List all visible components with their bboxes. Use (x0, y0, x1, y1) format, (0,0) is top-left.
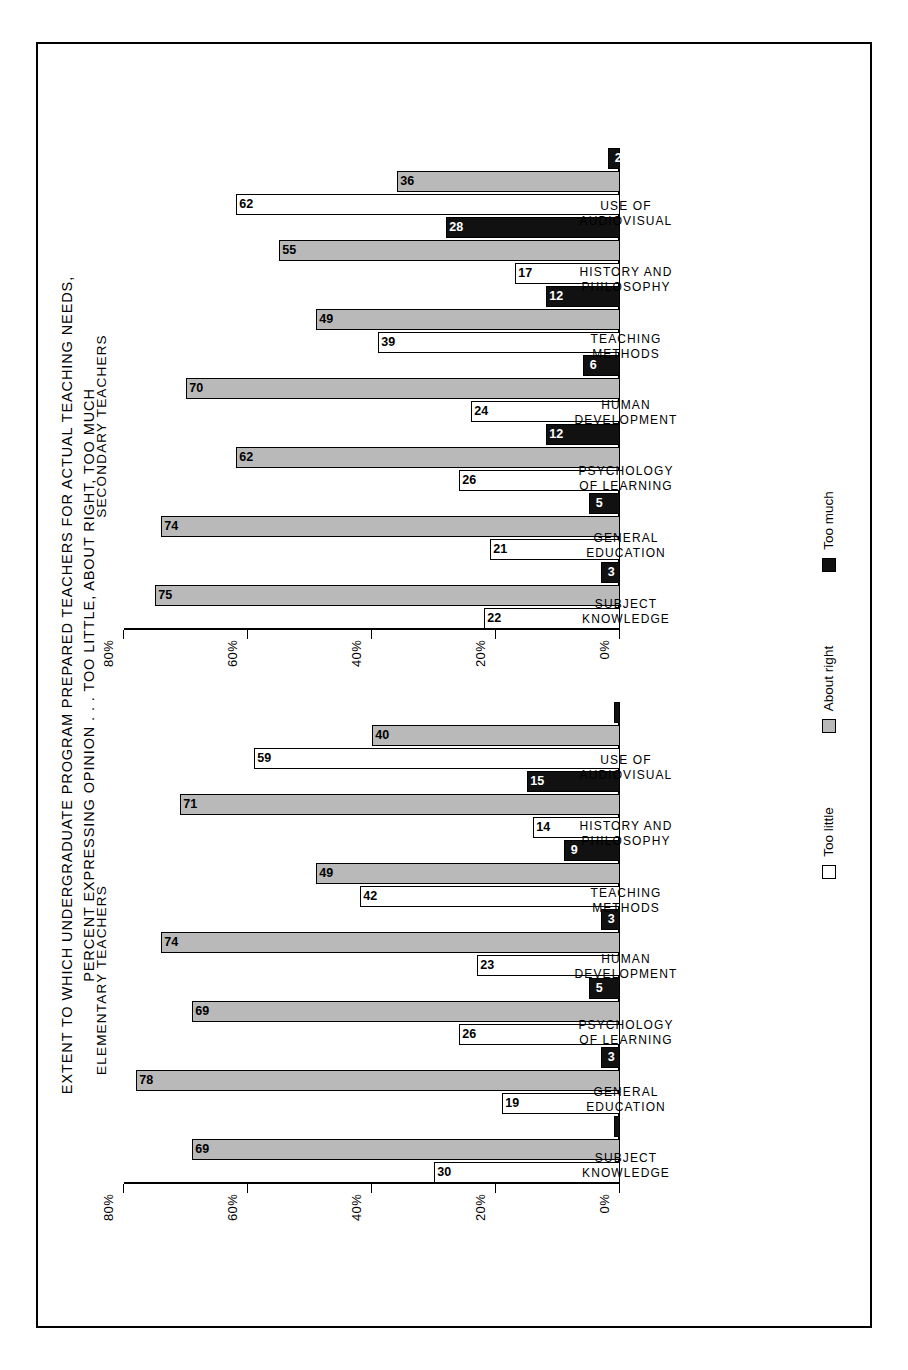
bar-little: 42 (360, 886, 620, 907)
bar-group: 21745 (124, 492, 620, 561)
bar-right: 49 (316, 863, 620, 884)
bar-value-label: 19 (506, 1097, 520, 1110)
category-label: HISTORY ANDPHILOSOPHY (620, 232, 684, 298)
bar-value-label: 36 (400, 175, 414, 188)
axis-tick-label: 40% (349, 1194, 364, 1236)
panel-elementary: ELEMENTARY TEACHERS 0%20%40%60%80% 30691… (124, 720, 684, 1240)
bar-much: 5 (589, 493, 620, 514)
axis-tick (123, 1184, 125, 1193)
category-label: GENERALEDUCATION (620, 497, 684, 563)
bar-value-label: 40 (375, 729, 389, 742)
legend-label: About right (821, 646, 836, 711)
bar-value-label: 28 (450, 221, 464, 234)
chart-title-line-1: EXTENT TO WHICH UNDERGRADUATE PROGRAM PR… (59, 276, 75, 1094)
category-label: HUMANDEVELOPMENT (620, 919, 684, 985)
bar-value-label: 55 (282, 244, 296, 257)
bar-right: 49 (316, 309, 620, 330)
bar-value-label: 75 (158, 589, 172, 602)
bar-right: 74 (161, 932, 620, 953)
axis-tick-label: 80% (101, 640, 116, 682)
bar-group: 26695 (124, 977, 620, 1046)
bar-right: 78 (136, 1070, 620, 1091)
bar-group: 394912 (124, 285, 620, 354)
bar-value-label: 42 (363, 890, 377, 903)
bar-little: 59 (254, 748, 620, 769)
bar-right: 75 (155, 585, 620, 606)
bar-group: 19783 (124, 1046, 620, 1115)
bar-group: 24706 (124, 354, 620, 423)
bar-group: 22753 (124, 561, 620, 630)
bar-value-label: 62 (239, 451, 253, 464)
panel-secondary: SECONDARY TEACHERS 0%20%40%60%80% 227532… (124, 166, 684, 686)
axis-tick-label: 60% (225, 640, 240, 682)
category-labels-secondary: SUBJECTKNOWLEDGEGENERALEDUCATIONPSYCHOLO… (620, 166, 684, 630)
bar-groups-secondary: 22753217452662122470639491217552862362 (124, 166, 620, 630)
bar-value-label: 9 (571, 844, 578, 857)
category-label: HUMANDEVELOPMENT (620, 365, 684, 431)
category-label: USE OFAUDIOVISUAL (620, 720, 684, 786)
bar-value-label: 5 (596, 982, 603, 995)
bar-right: 74 (161, 516, 620, 537)
bar-little: 39 (378, 332, 620, 353)
bar-value-label: 69 (196, 1005, 210, 1018)
bar-value-label: 26 (462, 1028, 476, 1041)
bar-value-label: 26 (462, 474, 476, 487)
bar-group: 30691 (124, 1115, 620, 1184)
category-label: TEACHINGMETHODS (620, 853, 684, 919)
axis-tick-label: 0% (597, 640, 612, 682)
bar-group: 59401 (124, 701, 620, 770)
category-label: HISTORY ANDPHILOSOPHY (620, 786, 684, 852)
axis-tick-label: 80% (101, 1194, 116, 1236)
category-label: USE OFAUDIOVISUAL (620, 166, 684, 232)
bar-value-label: 15 (530, 775, 544, 788)
bar-value-label: 30 (437, 1166, 451, 1179)
category-label: PSYCHOLOGYOF LEARNING (620, 431, 684, 497)
panel-title-secondary: SECONDARY TEACHERS (94, 166, 109, 686)
bar-value-label: 1 (621, 706, 628, 719)
legend-label: Too much (821, 491, 836, 550)
bar-much: 3 (601, 562, 620, 583)
axis-tick (371, 630, 373, 639)
legend-label: Too little (821, 807, 836, 857)
bar-value-label: 22 (487, 612, 501, 625)
category-label: SUBJECTKNOWLEDGE (620, 564, 684, 630)
bar-much: 3 (601, 1047, 620, 1068)
legend-item-little: Too little (821, 807, 836, 879)
bar-value-label: 17 (518, 267, 532, 280)
axis-tick (619, 1184, 621, 1193)
bar-right: 55 (279, 240, 620, 261)
bar-right: 71 (180, 794, 620, 815)
bar-value-label: 14 (537, 821, 551, 834)
axis-tick-label: 20% (473, 640, 488, 682)
axis-tick (495, 1184, 497, 1193)
bar-value-label: 2 (614, 152, 621, 165)
bar-group: 42499 (124, 839, 620, 908)
bar-value-label: 3 (608, 1051, 615, 1064)
bar-value-label: 71 (183, 798, 197, 811)
bar-value-label: 24 (475, 405, 489, 418)
axis-tick (495, 630, 497, 639)
category-label: GENERALEDUCATION (620, 1051, 684, 1117)
category-label: SUBJECTKNOWLEDGE (620, 1118, 684, 1184)
plot-area-elementary: 0%20%40%60%80% 3069119783266952374342499… (124, 720, 620, 1184)
bar-right: 69 (192, 1001, 620, 1022)
bar-value-label: 69 (196, 1143, 210, 1156)
bar-right: 69 (192, 1139, 620, 1160)
bar-right: 70 (186, 378, 620, 399)
axis-tick (247, 630, 249, 639)
bar-value-label: 74 (165, 936, 179, 949)
bar-value-label: 3 (608, 566, 615, 579)
legend-swatch-little-icon (822, 865, 836, 879)
figure-border: EXTENT TO WHICH UNDERGRADUATE PROGRAM PR… (36, 42, 872, 1328)
axis-tick-label: 0% (597, 1194, 612, 1236)
bar-value-label: 78 (140, 1074, 154, 1087)
figure-page: EXTENT TO WHICH UNDERGRADUATE PROGRAM PR… (0, 0, 908, 1370)
bar-groups-elementary: 306911978326695237434249914711559401 (124, 720, 620, 1184)
bar-right: 36 (397, 171, 620, 192)
axis-tick (123, 630, 125, 639)
bar-group: 62362 (124, 147, 620, 216)
category-labels-elementary: SUBJECTKNOWLEDGEGENERALEDUCATIONPSYCHOLO… (620, 720, 684, 1184)
bar-value-label: 23 (481, 959, 495, 972)
axis-tick (371, 1184, 373, 1193)
bar-value-label: 5 (596, 497, 603, 510)
